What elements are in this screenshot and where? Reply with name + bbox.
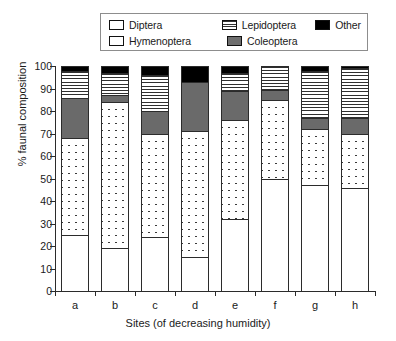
bar-site-e[interactable]	[221, 66, 249, 291]
x-tick-label-e: e	[220, 299, 250, 311]
x-tick-label-f: f	[260, 299, 290, 311]
segment-e-lepidoptera	[222, 73, 248, 91]
x-tick-mark-e-0	[215, 291, 216, 296]
bar-site-f[interactable]	[261, 66, 289, 291]
x-tick-mark-h-1	[375, 291, 376, 296]
segment-c-lepidoptera	[142, 75, 168, 111]
segment-f-lepidoptera	[262, 66, 288, 90]
legend-row-2: Hymenoptera Coleoptera	[109, 33, 361, 49]
segment-f-coleoptera	[262, 90, 288, 100]
x-tick-label-h: h	[340, 299, 370, 311]
segment-h-lepidoptera	[342, 68, 368, 118]
bar-site-c[interactable]	[141, 66, 169, 291]
segment-a-other	[62, 66, 88, 71]
segment-h-coleoptera	[342, 118, 368, 134]
segment-e-other	[222, 66, 248, 73]
segment-g-other	[302, 66, 328, 71]
x-tick-mark-f-0	[255, 291, 256, 296]
hymenoptera-swatch-icon	[109, 36, 124, 46]
segment-h-other	[342, 66, 368, 68]
legend-entry-diptera: Diptera	[109, 20, 222, 31]
legend-entry-lepidoptera: Lepidoptera	[222, 20, 316, 31]
x-tick-mark-c-0	[135, 291, 136, 296]
segment-c-coleoptera	[142, 111, 168, 134]
legend-entry-hymenoptera: Hymenoptera	[109, 36, 227, 47]
legend-label-diptera: Diptera	[129, 20, 162, 31]
x-tick-mark-g-0	[295, 291, 296, 296]
coleoptera-swatch-icon	[227, 36, 242, 46]
segment-d-diptera	[182, 131, 208, 257]
legend-entry-coleoptera: Coleoptera	[227, 36, 325, 47]
segment-c-diptera	[142, 134, 168, 238]
segment-b-lepidoptera	[102, 73, 128, 96]
segment-b-other	[102, 66, 128, 73]
segment-a-hymenoptera	[62, 235, 88, 291]
segment-g-hymenoptera	[302, 185, 328, 291]
chart-legend: Diptera Lepidoptera Other Hymenoptera Co…	[100, 13, 368, 51]
segment-h-diptera	[342, 134, 368, 188]
segment-h-hymenoptera	[342, 188, 368, 292]
segment-g-coleoptera	[302, 118, 328, 129]
x-tick-label-g: g	[300, 299, 330, 311]
legend-label-other: Other	[335, 20, 361, 31]
segment-b-diptera	[102, 102, 128, 248]
x-tick-mark-d-0	[175, 291, 176, 296]
x-tick-mark-b-0	[95, 291, 96, 296]
segment-g-diptera	[302, 129, 328, 185]
x-tick-label-d: d	[180, 299, 210, 311]
bar-site-b[interactable]	[101, 66, 129, 291]
x-tick-mark-h-0	[335, 291, 336, 296]
y-axis-tick-marks	[0, 66, 56, 292]
bar-site-a[interactable]	[61, 66, 89, 291]
x-tick-label-a: a	[60, 299, 90, 311]
other-swatch-icon	[315, 20, 330, 30]
segment-e-hymenoptera	[222, 219, 248, 291]
diptera-swatch-icon	[109, 20, 124, 30]
x-tick-label-b: b	[100, 299, 130, 311]
legend-entry-other: Other	[315, 20, 361, 31]
segment-f-hymenoptera	[262, 179, 288, 292]
legend-label-coleoptera: Coleoptera	[247, 36, 297, 47]
legend-label-lepidoptera: Lepidoptera	[242, 20, 296, 31]
segment-a-diptera	[62, 138, 88, 235]
segment-b-coleoptera	[102, 95, 128, 102]
segment-d-hymenoptera	[182, 257, 208, 291]
stacked-bar-plot-area	[55, 66, 375, 291]
legend-label-hymenoptera: Hymenoptera	[129, 36, 191, 47]
segment-c-hymenoptera	[142, 237, 168, 291]
segment-a-coleoptera	[62, 98, 88, 139]
segment-e-diptera	[222, 120, 248, 219]
lepidoptera-swatch-icon	[222, 20, 237, 30]
bar-site-h[interactable]	[341, 66, 369, 291]
segment-c-other	[142, 66, 168, 75]
legend-row-1: Diptera Lepidoptera Other	[109, 17, 361, 33]
x-axis-label: Sites (of decreasing humidity)	[0, 317, 396, 329]
segment-f-diptera	[262, 100, 288, 179]
segment-d-other	[182, 66, 208, 82]
segment-e-coleoptera	[222, 91, 248, 120]
segment-g-lepidoptera	[302, 71, 328, 118]
bar-site-d[interactable]	[181, 66, 209, 291]
segment-a-lepidoptera	[62, 71, 88, 98]
bar-site-g[interactable]	[301, 66, 329, 291]
x-tick-label-c: c	[140, 299, 170, 311]
x-tick-mark-a-0	[55, 291, 56, 296]
segment-b-hymenoptera	[102, 248, 128, 291]
segment-d-coleoptera	[182, 82, 208, 132]
